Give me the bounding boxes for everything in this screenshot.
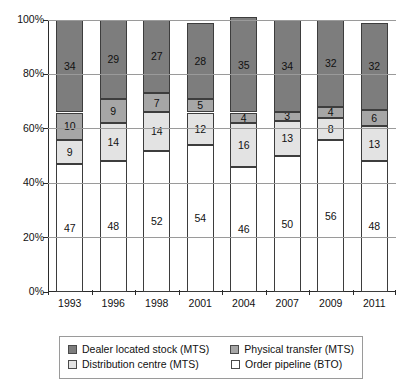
legend-label: Distribution centre (MTS): [82, 357, 199, 372]
bar-segment-value: 10: [64, 121, 76, 132]
stacked-bar[interactable]: 4813632: [361, 20, 388, 292]
bar-segment[interactable]: 6: [361, 110, 388, 126]
bar-segment[interactable]: 14: [143, 112, 170, 150]
bar-segment-value: 46: [238, 224, 250, 235]
bar-segment[interactable]: 46: [230, 167, 257, 292]
x-axis-tick-label: 2011: [353, 298, 397, 309]
bar-segment-value: 47: [64, 223, 76, 234]
x-axis-tick: [179, 290, 180, 295]
bar-segment-value: 5: [197, 100, 203, 111]
bar-group: 4813632: [361, 20, 388, 292]
x-axis-tick-label: 2009: [309, 298, 353, 309]
bar-segment[interactable]: 34: [56, 20, 83, 112]
x-axis-tick-label: 2004: [222, 298, 266, 309]
bar-segment[interactable]: 32: [361, 23, 388, 110]
stacked-bar[interactable]: 4791034: [56, 20, 83, 292]
bar-segment-value: 6: [371, 113, 377, 124]
x-axis-tick: [48, 290, 49, 295]
bar-segment-value: 7: [154, 98, 160, 109]
bar-segment-value: 48: [368, 221, 380, 232]
bar-segment[interactable]: 28: [187, 23, 214, 99]
legend-swatch-icon: [68, 360, 77, 369]
legend-label: Physical transfer (MTS): [244, 342, 354, 357]
bar-group: 5214727: [143, 20, 170, 292]
stacked-bar-chart: 0%20%40%60%80%100% 479103448149295214727…: [0, 0, 419, 387]
legend-item-order-pipeline[interactable]: Order pipeline (BTO): [231, 357, 342, 372]
gridline: [48, 128, 396, 129]
bar-segment[interactable]: 10: [56, 113, 83, 140]
bar-group: 4616435: [230, 20, 257, 292]
y-axis-tick: [43, 128, 48, 129]
bar-group: 5013334: [274, 20, 301, 292]
bar-segment-value: 52: [151, 216, 163, 227]
bar-segment[interactable]: 4: [230, 113, 257, 124]
legend-item-physical-transfer[interactable]: Physical transfer (MTS): [230, 342, 354, 357]
legend-row-2: Distribution centre (MTS) Order pipeline…: [68, 357, 354, 372]
bar-segment[interactable]: 13: [361, 126, 388, 161]
bar-segment-value: 54: [194, 213, 206, 224]
bar-segment[interactable]: 56: [317, 140, 344, 292]
bar-segment-value: 13: [281, 133, 293, 144]
plot-area: 4791034481492952147275412528461643550133…: [48, 20, 396, 292]
bar-group: 4814929: [100, 20, 127, 292]
bar-segment[interactable]: 7: [143, 93, 170, 112]
bar-segment[interactable]: 32: [317, 20, 344, 107]
bar-segment[interactable]: 9: [56, 140, 83, 164]
bar-segment-value: 9: [67, 147, 73, 158]
stacked-bar[interactable]: 4616435: [230, 20, 257, 292]
bar-series-container: 4791034481492952147275412528461643550133…: [48, 20, 396, 292]
bar-segment-value: 48: [107, 221, 119, 232]
bar-segment-value: 50: [281, 219, 293, 230]
x-axis-tick: [222, 290, 223, 295]
legend-row-1: Dealer located stock (MTS) Physical tran…: [68, 342, 354, 357]
bar-segment-value: 13: [368, 139, 380, 150]
bar-segment[interactable]: 48: [361, 161, 388, 292]
bar-segment[interactable]: 16: [230, 123, 257, 167]
bar-segment[interactable]: 4: [317, 107, 344, 118]
x-axis-tick-label: 2001: [179, 298, 223, 309]
y-axis-tick-label: 80%: [4, 68, 44, 79]
bar-segment[interactable]: 3: [274, 112, 301, 120]
bar-segment-value: 34: [281, 61, 293, 72]
bar-segment-value: 4: [328, 107, 334, 118]
y-axis-tick: [43, 183, 48, 184]
bar-segment[interactable]: 54: [187, 145, 214, 292]
x-axis-tick: [135, 290, 136, 295]
x-axis-tick-label: 1998: [135, 298, 179, 309]
bar-segment-value: 32: [368, 61, 380, 72]
bar-segment[interactable]: 29: [100, 20, 127, 99]
bar-segment[interactable]: 50: [274, 156, 301, 292]
stacked-bar[interactable]: 5214727: [143, 20, 170, 292]
y-axis-tick-label: 60%: [4, 123, 44, 134]
legend-label: Dealer located stock (MTS): [82, 342, 209, 357]
y-axis-tick-label: 40%: [4, 177, 44, 188]
stacked-bar[interactable]: 568432: [317, 20, 344, 292]
legend-swatch-icon: [231, 360, 240, 369]
legend-item-dealer-located-stock[interactable]: Dealer located stock (MTS): [68, 342, 230, 357]
stacked-bar[interactable]: 5412528: [187, 20, 214, 292]
bar-segment-value: 34: [64, 61, 76, 72]
x-axis-tick: [92, 290, 93, 295]
legend-item-distribution-centre[interactable]: Distribution centre (MTS): [68, 357, 231, 372]
bar-segment-value: 29: [107, 54, 119, 65]
stacked-bar[interactable]: 5013334: [274, 20, 301, 292]
bar-segment[interactable]: 48: [100, 161, 127, 292]
bar-segment[interactable]: 34: [274, 20, 301, 112]
gridline: [48, 237, 396, 238]
stacked-bar[interactable]: 4814929: [100, 20, 127, 292]
bar-segment[interactable]: 9: [100, 99, 127, 123]
bar-group: 5412528: [187, 20, 214, 292]
bar-segment[interactable]: 13: [274, 121, 301, 156]
bar-segment[interactable]: 5: [187, 99, 214, 113]
bar-segment-value: 16: [238, 140, 250, 151]
bar-segment[interactable]: 27: [143, 20, 170, 93]
legend-label: Order pipeline (BTO): [245, 357, 342, 372]
bar-segment[interactable]: 35: [230, 17, 257, 112]
x-axis-tick-label: 1996: [92, 298, 136, 309]
bar-segment-value: 4: [241, 113, 247, 124]
bar-segment[interactable]: 52: [143, 151, 170, 292]
bar-group: 568432: [317, 20, 344, 292]
bar-segment-value: 3: [284, 112, 290, 120]
x-axis-tick: [309, 290, 310, 295]
y-axis-tick-label: 100%: [4, 14, 44, 25]
